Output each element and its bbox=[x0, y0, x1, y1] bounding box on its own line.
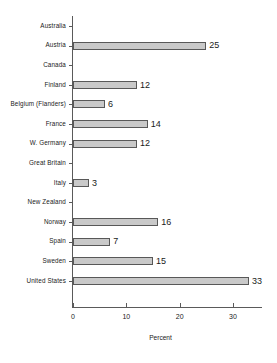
y-axis-tick bbox=[69, 104, 72, 105]
bar-row: W. Germany12 bbox=[0, 134, 277, 154]
bar-row: Finland12 bbox=[0, 75, 277, 95]
bar bbox=[73, 277, 249, 285]
bar-value-label: 33 bbox=[252, 276, 262, 286]
bar-value-label: 6 bbox=[108, 99, 113, 109]
y-axis-tick bbox=[69, 281, 72, 282]
bar-row: Sweden15 bbox=[0, 251, 277, 271]
x-axis-tick bbox=[73, 303, 74, 308]
x-axis-tick-label: 20 bbox=[170, 312, 190, 321]
x-axis-title: Percent bbox=[0, 333, 277, 342]
y-axis-tick bbox=[69, 144, 72, 145]
bar bbox=[73, 140, 137, 148]
bar-row: France14 bbox=[0, 114, 277, 134]
y-axis-tick bbox=[69, 222, 72, 223]
category-label: Belgium (Flanders) bbox=[0, 100, 66, 108]
y-axis-tick bbox=[69, 202, 72, 203]
bar-row: Great Britain bbox=[0, 153, 277, 173]
category-label: Finland bbox=[0, 81, 66, 89]
bar bbox=[73, 100, 105, 108]
bar bbox=[73, 257, 153, 265]
bar-value-label: 12 bbox=[140, 80, 150, 90]
category-label: Canada bbox=[0, 61, 66, 69]
x-axis-tick bbox=[126, 303, 127, 308]
bar-value-label: 12 bbox=[140, 138, 150, 148]
bar-row: New Zealand bbox=[0, 193, 277, 213]
x-axis-tick-label: 0 bbox=[63, 312, 83, 321]
y-axis-tick bbox=[69, 65, 72, 66]
bar-value-label: 25 bbox=[209, 40, 219, 50]
x-axis-tick-label: 30 bbox=[223, 312, 243, 321]
bar-row: Spain7 bbox=[0, 232, 277, 252]
category-label: Austria bbox=[0, 41, 66, 49]
x-axis-title-label: Percent bbox=[149, 334, 172, 341]
bar-value-label: 15 bbox=[156, 256, 166, 266]
category-label: New Zealand bbox=[0, 198, 66, 206]
category-label: United States bbox=[0, 277, 66, 285]
category-label: Norway bbox=[0, 218, 66, 226]
y-axis-tick bbox=[69, 261, 72, 262]
bar-value-label: 16 bbox=[161, 217, 171, 227]
y-axis-tick bbox=[69, 183, 72, 184]
bar-row: Belgium (Flanders)6 bbox=[0, 95, 277, 115]
bar-value-label: 14 bbox=[151, 119, 161, 129]
bar bbox=[73, 42, 206, 50]
y-axis-tick bbox=[69, 242, 72, 243]
bar-row: Austria25 bbox=[0, 36, 277, 56]
y-axis-tick bbox=[69, 85, 72, 86]
bar-value-label: 3 bbox=[92, 178, 97, 188]
bar bbox=[73, 179, 89, 187]
bar bbox=[73, 120, 148, 128]
bar bbox=[73, 218, 158, 226]
category-label: Sweden bbox=[0, 257, 66, 265]
bar-chart: AustraliaAustria25CanadaFinland12Belgium… bbox=[0, 0, 277, 363]
bar bbox=[73, 238, 110, 246]
y-axis-tick bbox=[69, 26, 72, 27]
category-label: Great Britain bbox=[0, 159, 66, 167]
bar bbox=[73, 81, 137, 89]
y-axis-tick bbox=[69, 163, 72, 164]
x-axis-tick-label: 10 bbox=[116, 312, 136, 321]
category-label: W. Germany bbox=[0, 139, 66, 147]
category-label: Australia bbox=[0, 22, 66, 30]
x-axis-tick bbox=[180, 303, 181, 308]
category-label: Spain bbox=[0, 237, 66, 245]
bar-value-label: 7 bbox=[113, 236, 118, 246]
bar-row: Australia bbox=[0, 16, 277, 36]
bar-row: Italy3 bbox=[0, 173, 277, 193]
bar-row: Canada bbox=[0, 55, 277, 75]
bar-row: Norway16 bbox=[0, 212, 277, 232]
bar-row: United States33 bbox=[0, 271, 277, 291]
y-axis-tick bbox=[69, 124, 72, 125]
plot-area: AustraliaAustria25CanadaFinland12Belgium… bbox=[0, 0, 277, 363]
y-axis-tick bbox=[69, 46, 72, 47]
x-axis-tick bbox=[233, 303, 234, 308]
category-label: Italy bbox=[0, 179, 66, 187]
category-label: France bbox=[0, 120, 66, 128]
